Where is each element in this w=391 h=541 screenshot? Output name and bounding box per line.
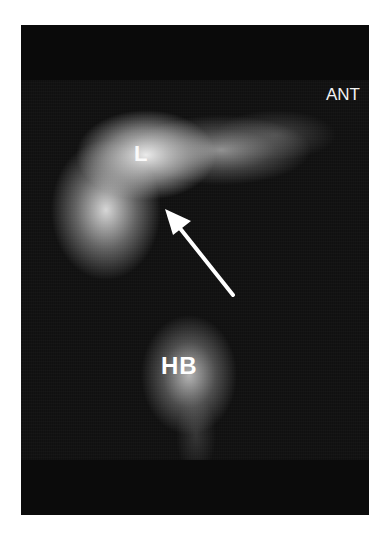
arrow-icon [21, 25, 369, 515]
scan-image: ANT L HB [21, 25, 369, 515]
